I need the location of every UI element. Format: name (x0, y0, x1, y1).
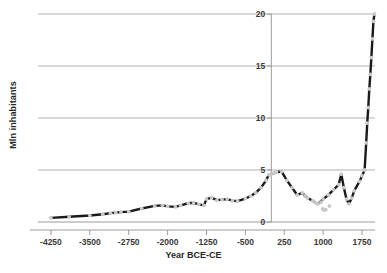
data-marker (101, 212, 105, 216)
data-marker (225, 197, 229, 201)
y-tick-label-10: 10 (256, 113, 266, 123)
data-marker (358, 180, 362, 184)
data-marker (153, 204, 157, 208)
data-marker (186, 201, 190, 205)
x-tick-label--3500: -3500 (79, 237, 101, 247)
data-marker (275, 170, 279, 174)
data-marker (347, 202, 351, 206)
data-marker (231, 199, 235, 203)
data-marker (369, 56, 373, 60)
data-marker (371, 37, 375, 41)
data-marker (205, 197, 209, 201)
scatter-outlier-dot (324, 208, 328, 212)
x-tick-label--4250: -4250 (40, 237, 62, 247)
y-tick-label-5: 5 (261, 165, 266, 175)
x-tick-label--2750: -2750 (118, 237, 140, 247)
x-tick-marks-group (51, 230, 362, 235)
data-marker (243, 197, 247, 201)
y-axis-label: Mln inhabitants (2, 0, 24, 230)
data-marker (352, 189, 356, 193)
data-marker (215, 198, 219, 202)
x-axis-label: Year BCE-CE (0, 250, 387, 260)
data-marker (254, 191, 258, 195)
data-marker (140, 207, 144, 211)
data-marker (306, 196, 310, 200)
data-marker (67, 215, 71, 219)
data-marker (197, 202, 201, 206)
data-marker (179, 203, 183, 207)
data-marker (342, 186, 346, 190)
y-tick-label-0: 0 (261, 217, 266, 227)
data-marker (49, 216, 53, 220)
chart-plot-area: -4250-3500-2750-2000-1250-50025010001750… (0, 0, 387, 273)
data-marker (249, 194, 253, 198)
data-marker (220, 198, 224, 202)
data-marker (364, 141, 368, 145)
data-marker (365, 121, 369, 125)
data-marker (109, 211, 113, 215)
data-marker (192, 201, 196, 205)
data-marker (210, 196, 214, 200)
data-marker (366, 106, 370, 110)
data-marker (368, 72, 372, 76)
data-marker (88, 214, 92, 218)
data-series-group (51, 14, 375, 218)
data-marker (326, 193, 330, 197)
data-marker (114, 211, 118, 215)
data-marker (290, 186, 294, 190)
data-marker (372, 19, 376, 23)
scatter-outliers-group (319, 200, 331, 212)
data-marker (202, 203, 206, 207)
x-tick-label--500: -500 (237, 237, 254, 247)
data-marker (173, 205, 177, 209)
x-tick-label--2000: -2000 (157, 237, 179, 247)
data-marker (127, 210, 131, 214)
data-marker (332, 188, 336, 192)
data-marker (373, 12, 377, 16)
x-tick-labels-group: -4250-3500-2750-2000-1250-50025010001750 (40, 237, 372, 247)
data-marker (367, 87, 371, 91)
x-tick-label-1750: 1750 (353, 237, 372, 247)
scatter-outlier-dot (327, 204, 331, 208)
data-marker (360, 174, 364, 178)
data-marker (285, 179, 289, 183)
data-marker (301, 191, 305, 195)
data-marker (259, 186, 263, 190)
data-marker (264, 179, 268, 183)
data-marker (161, 203, 165, 207)
x-tick-label-250: 250 (277, 237, 291, 247)
data-marker (119, 210, 123, 214)
y-axis-label-text: Mln inhabitants (8, 81, 18, 149)
x-tick-label-1000: 1000 (314, 237, 333, 247)
gridlines-group (38, 14, 375, 222)
data-marker (345, 197, 349, 201)
data-marker (321, 197, 325, 201)
data-marker (280, 170, 284, 174)
data-marker (337, 183, 341, 187)
y-tick-label-20: 20 (256, 9, 266, 19)
data-marker (236, 199, 240, 203)
chart-container: -4250-3500-2750-2000-1250-50025010001750… (0, 0, 387, 273)
scatter-outlier-dot (319, 200, 323, 204)
x-tick-label--1250: -1250 (196, 237, 218, 247)
data-marker (350, 196, 354, 200)
data-markers-group (49, 12, 376, 220)
data-marker (166, 205, 170, 209)
data-marker (295, 193, 299, 197)
series-line-0 (51, 14, 375, 218)
data-marker (339, 172, 343, 176)
y-tick-label-15: 15 (256, 61, 266, 71)
y-tick-labels-group: 05101520 (256, 9, 271, 227)
data-marker (363, 168, 367, 172)
